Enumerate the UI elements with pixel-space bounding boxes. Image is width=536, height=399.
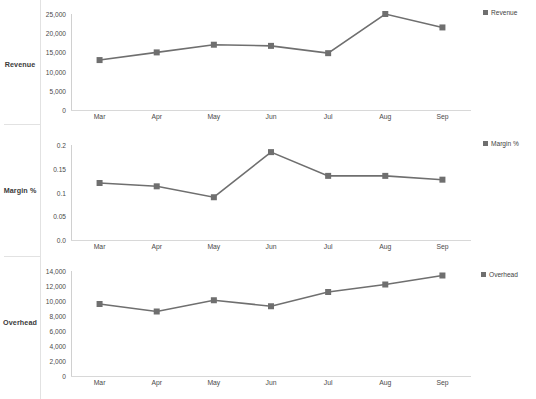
x-tick-label: Jul <box>311 243 345 251</box>
x-tick-label: Aug <box>368 243 402 251</box>
x-tick-label: Apr <box>140 243 174 251</box>
x-tick-label: Apr <box>140 379 174 387</box>
x-tick-label: Jul <box>311 379 345 387</box>
x-tick-label: Sep <box>425 113 459 121</box>
data-point-marker[interactable] <box>325 289 331 295</box>
data-point-marker[interactable] <box>154 309 160 315</box>
legend-overhead[interactable]: Overhead <box>481 271 518 278</box>
x-tick-label: Mar <box>83 379 117 387</box>
legend-swatch-icon <box>483 141 488 146</box>
x-tick-label: Sep <box>425 243 459 251</box>
data-point-marker[interactable] <box>154 49 160 55</box>
x-tick-label: Aug <box>368 113 402 121</box>
x-tick-label: Jun <box>254 243 288 251</box>
data-point-marker[interactable] <box>439 273 445 279</box>
data-point-marker[interactable] <box>211 194 217 200</box>
x-tick-label: Jul <box>311 113 345 121</box>
data-point-marker[interactable] <box>382 173 388 179</box>
x-tick-label: Apr <box>140 113 174 121</box>
data-point-marker[interactable] <box>97 301 103 307</box>
legend-revenue[interactable]: Revenue <box>483 9 517 16</box>
data-point-marker[interactable] <box>268 149 274 155</box>
x-tick-label: May <box>197 243 231 251</box>
x-tick-label: Mar <box>83 243 117 251</box>
data-point-marker[interactable] <box>325 173 331 179</box>
data-point-marker[interactable] <box>382 11 388 17</box>
data-point-marker[interactable] <box>439 177 445 183</box>
x-tick-label: May <box>197 379 231 387</box>
x-tick-label: Jun <box>254 113 288 121</box>
data-point-marker[interactable] <box>439 24 445 30</box>
data-point-marker[interactable] <box>382 282 388 288</box>
series-line-revenue <box>0 0 536 130</box>
chart-panel-revenue: Revenue 05,00010,00015,00020,00025,000 R… <box>0 0 536 130</box>
data-point-marker[interactable] <box>211 42 217 48</box>
data-point-marker[interactable] <box>325 50 331 56</box>
x-tick-label: Sep <box>425 379 459 387</box>
data-point-marker[interactable] <box>154 183 160 189</box>
legend-label-revenue: Revenue <box>491 9 517 16</box>
legend-label-margin: Margin % <box>491 140 519 147</box>
x-tick-label: Jun <box>254 379 288 387</box>
chart-panel-margin: Margin % 0.00.050.10.150.2 Margin % MarA… <box>0 130 536 262</box>
legend-swatch-icon <box>483 10 488 15</box>
chart-panel-overhead: Overhead 02,0004,0006,0008,00010,00012,0… <box>0 262 536 399</box>
data-point-marker[interactable] <box>97 57 103 63</box>
x-tick-label: Mar <box>83 113 117 121</box>
x-tick-label: Aug <box>368 379 402 387</box>
data-point-marker[interactable] <box>268 303 274 309</box>
chart-page: Revenue 05,00010,00015,00020,00025,000 R… <box>0 0 536 399</box>
data-point-marker[interactable] <box>211 297 217 303</box>
x-tick-label: May <box>197 113 231 121</box>
legend-swatch-icon <box>481 272 486 277</box>
data-point-marker[interactable] <box>97 180 103 186</box>
data-point-marker[interactable] <box>268 43 274 49</box>
legend-margin[interactable]: Margin % <box>483 140 519 147</box>
legend-label-overhead: Overhead <box>489 271 518 278</box>
